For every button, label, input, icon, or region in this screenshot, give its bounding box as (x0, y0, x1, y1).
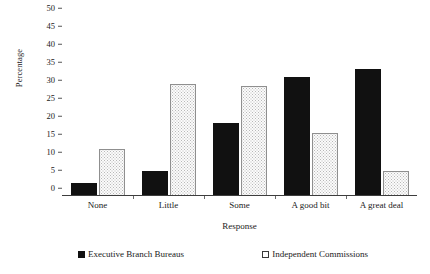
y-tick: 50 (39, 3, 62, 12)
x-axis-line (62, 195, 417, 196)
y-tick: 15 (39, 129, 62, 138)
x-tick-label: None (62, 200, 133, 210)
legend-item: Independent Commissions (262, 249, 368, 259)
y-tick-label: 15 (39, 129, 55, 138)
legend-label: Executive Branch Bureaus (88, 249, 184, 259)
bar-independent-commissions (241, 86, 267, 196)
bar-executive-branch-bureaus (213, 123, 239, 196)
y-tick: 10 (39, 147, 62, 156)
x-tick-label: A good bit (275, 200, 346, 210)
y-tick-label: 5 (39, 165, 55, 174)
legend-swatch-open-white-square (262, 251, 269, 258)
y-tick-label: 35 (39, 57, 55, 66)
y-tick: 35 (39, 57, 62, 66)
y-tick-label: 20 (39, 111, 55, 120)
y-tick-mark (58, 7, 62, 8)
y-tick: 30 (39, 75, 62, 84)
y-tick-label: 0 (39, 183, 55, 192)
y-tick-label: 30 (39, 75, 55, 84)
y-tick-label: 10 (39, 147, 55, 156)
x-tick-mark (133, 196, 134, 199)
bar-group (346, 16, 417, 196)
bar-group (275, 16, 346, 196)
bar-independent-commissions (312, 133, 338, 196)
bar-executive-branch-bureaus (355, 69, 381, 196)
legend-label: Independent Commissions (272, 249, 368, 259)
y-tick: 45 (39, 21, 62, 30)
bar-chart: Percentage 50454035302520151050 NoneLitt… (0, 0, 430, 274)
y-tick-label: 25 (39, 93, 55, 102)
x-tick-mark (346, 196, 347, 199)
y-tick: 0 (39, 183, 62, 192)
x-tick-mark (275, 196, 276, 199)
x-tick-label: Some (204, 200, 275, 210)
bar-independent-commissions (99, 149, 125, 196)
y-tick-label: 40 (39, 39, 55, 48)
bar-group (133, 16, 204, 196)
y-tick: 5 (39, 165, 62, 174)
legend-item: Executive Branch Bureaus (78, 249, 184, 259)
bar-independent-commissions (170, 84, 196, 196)
y-tick: 25 (39, 93, 62, 102)
y-tick: 40 (39, 39, 62, 48)
y-tick-label: 45 (39, 21, 55, 30)
bar-group (62, 16, 133, 196)
x-tick-label: Little (133, 200, 204, 210)
bar-groups (62, 16, 417, 196)
y-tick-label: 50 (39, 3, 55, 12)
x-tick-mark (204, 196, 205, 199)
y-axis-title: Percentage (14, 28, 24, 108)
bar-group (204, 16, 275, 196)
bar-independent-commissions (383, 171, 409, 196)
bar-executive-branch-bureaus (284, 77, 310, 196)
legend-swatch-filled-black-square (78, 251, 85, 258)
x-axis-tick-labels: NoneLittleSomeA good bitA great deal (62, 200, 417, 210)
x-axis-title: Response (62, 221, 417, 231)
chart-legend: Executive Branch BureausIndependent Comm… (78, 249, 368, 259)
bar-executive-branch-bureaus (142, 171, 168, 196)
y-tick: 20 (39, 111, 62, 120)
x-tick-label: A great deal (346, 200, 417, 210)
plot-area: 50454035302520151050 (62, 16, 417, 196)
